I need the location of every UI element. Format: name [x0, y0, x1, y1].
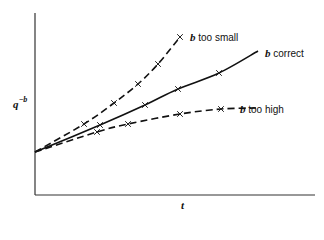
- x-axis-label: t: [181, 199, 184, 211]
- series-layer: [35, 34, 258, 152]
- series-label-too-small: b too small: [190, 32, 238, 43]
- series-b-too-small: [35, 34, 183, 152]
- y-axis-label: q−b: [13, 96, 27, 110]
- series-line: [35, 108, 256, 152]
- series-line: [35, 51, 258, 152]
- x-marker-icon: [142, 102, 148, 108]
- x-marker-icon: [177, 34, 183, 40]
- series-line: [35, 37, 180, 152]
- series-label-too-high: b too high: [240, 104, 284, 115]
- x-marker-icon: [135, 81, 141, 87]
- series-b-too-high: [35, 106, 256, 152]
- x-marker-icon: [111, 100, 117, 106]
- series-b-correct: [35, 51, 258, 152]
- x-marker-icon: [81, 121, 87, 127]
- series-label-correct: b correct: [265, 48, 304, 59]
- x-marker-icon: [155, 61, 161, 67]
- x-marker-icon: [216, 70, 222, 76]
